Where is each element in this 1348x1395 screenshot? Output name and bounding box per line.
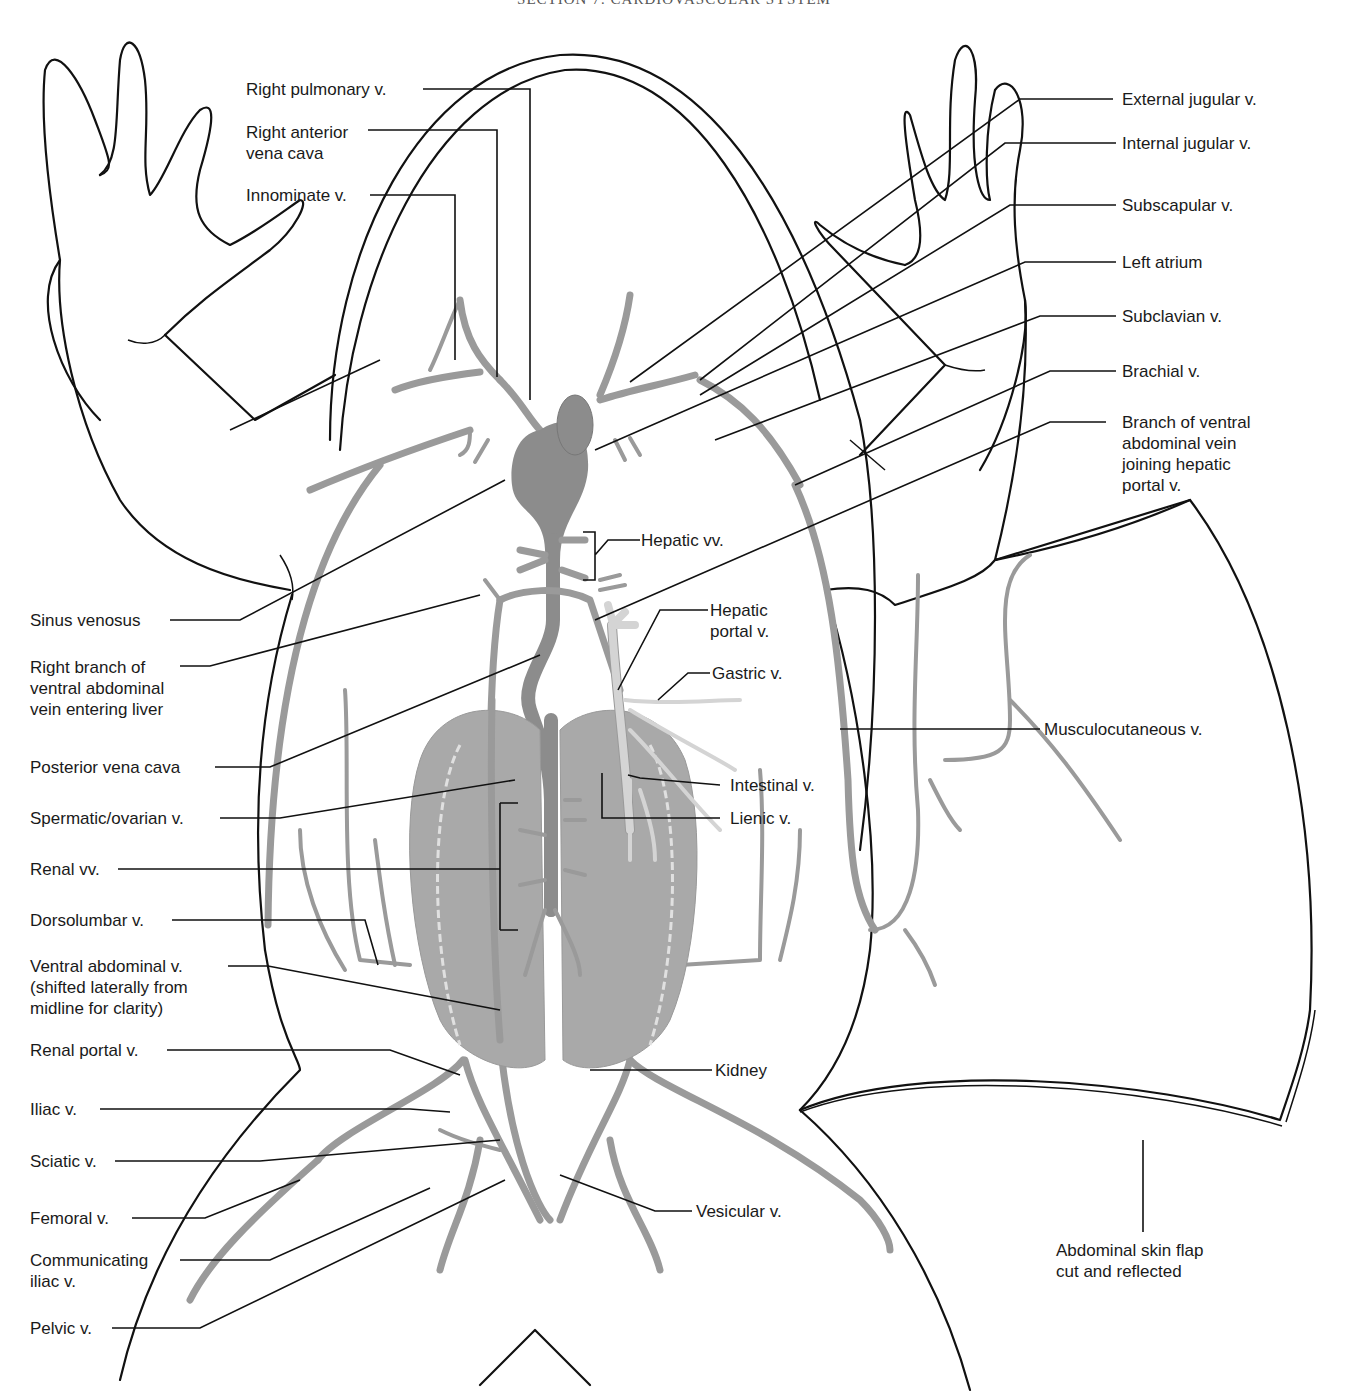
label-right-anterior-vena-cava: Right anterior vena cava — [246, 122, 348, 164]
left-atrium-shape — [557, 395, 593, 455]
label-brachial-v: Brachial v. — [1122, 361, 1200, 382]
label-external-jugular-v: External jugular v. — [1122, 89, 1257, 110]
label-kidney: Kidney — [715, 1060, 767, 1081]
label-subclavian-v: Subclavian v. — [1122, 306, 1222, 327]
label-innominate-v: Innominate v. — [246, 185, 347, 206]
body-outline — [44, 43, 1315, 1390]
label-vesicular-v: Vesicular v. — [696, 1201, 782, 1222]
label-internal-jugular-v: Internal jugular v. — [1122, 133, 1251, 154]
label-lienic-v: Lienic v. — [730, 808, 791, 829]
label-left-atrium: Left atrium — [1122, 252, 1202, 273]
label-sciatic-v: Sciatic v. — [30, 1151, 97, 1172]
label-ventral-abdominal-v: Ventral abdominal v. (shifted laterally … — [30, 956, 188, 1019]
label-renal-portal-v: Renal portal v. — [30, 1040, 138, 1061]
label-communicating-iliac-v: Communicating iliac v. — [30, 1250, 148, 1292]
label-gastric-v: Gastric v. — [712, 663, 783, 684]
label-dorsolumbar-v: Dorsolumbar v. — [30, 910, 144, 931]
label-iliac-v: Iliac v. — [30, 1099, 77, 1120]
label-right-pulmonary-v: Right pulmonary v. — [246, 79, 386, 100]
label-femoral-v: Femoral v. — [30, 1208, 109, 1229]
label-abdominal-skin-flap: Abdominal skin flap cut and reflected — [1056, 1240, 1203, 1282]
label-posterior-vena-cava: Posterior vena cava — [30, 757, 180, 778]
label-branch-ventral-abdominal-hepatic-portal: Branch of ventral abdominal vein joining… — [1122, 412, 1251, 496]
label-spermatic-ovarian-v: Spermatic/ovarian v. — [30, 808, 184, 829]
label-pelvic-v: Pelvic v. — [30, 1318, 92, 1339]
label-renal-vv: Renal vv. — [30, 859, 100, 880]
label-right-branch-ventral-abdominal: Right branch of ventral abdominal vein e… — [30, 657, 164, 720]
label-hepatic-vv: Hepatic vv. — [641, 530, 724, 551]
label-subscapular-v: Subscapular v. — [1122, 195, 1233, 216]
label-hepatic-portal-v: Hepatic portal v. — [710, 600, 769, 642]
label-intestinal-v: Intestinal v. — [730, 775, 815, 796]
label-musculocutaneous-v: Musculocutaneous v. — [1044, 719, 1202, 740]
label-sinus-venosus: Sinus venosus — [30, 610, 141, 631]
